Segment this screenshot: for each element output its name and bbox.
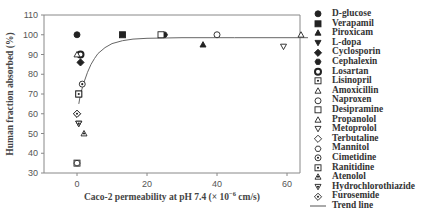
- y-tick-label: 90: [28, 50, 38, 60]
- y-tick-label: 110: [24, 10, 38, 20]
- triangle-down-dot-icon: [315, 184, 321, 189]
- square-open-icon: [315, 107, 321, 113]
- legend: D-glucoseVerapamilPiroxicamL-dopaCyclosp…: [310, 9, 415, 210]
- data-point-hydrochlorothiazide: [76, 121, 82, 126]
- data-point-atenolol: [81, 131, 87, 136]
- data-point-mannitol: [74, 161, 80, 166]
- circle-thick-icon: [315, 69, 321, 75]
- triangle-down-filled-icon: [315, 40, 321, 45]
- data-point-verapamil: [120, 32, 126, 38]
- x-tick-label: 40: [212, 179, 222, 189]
- triangle-up-filled-icon: [315, 30, 321, 35]
- plot-frame: [44, 15, 300, 173]
- triangle-up-dot-icon: [315, 174, 321, 179]
- y-tick-label: 60: [28, 109, 38, 119]
- y-tick-label: 100: [23, 30, 38, 40]
- square-dot-icon: [315, 78, 321, 84]
- triangle-up-open-icon: [315, 88, 321, 93]
- data-point-piroxicam: [200, 42, 206, 47]
- x-tick-label: 0: [74, 179, 79, 189]
- square-dot-icon: [315, 165, 321, 171]
- legend-label: Trend line: [332, 201, 373, 211]
- data-point-cimetidine: [79, 81, 85, 87]
- triangle-up-open-icon: [315, 117, 321, 122]
- diamond-open-icon: [314, 135, 321, 142]
- data-points: [73, 32, 304, 166]
- x-axis-ticks: 0204060: [74, 173, 292, 189]
- x-axis-title: Caco-2 permeability at pH 7.4 (× 10−6 cm…: [84, 190, 260, 203]
- y-tick-label: 40: [28, 148, 38, 158]
- circle-filled-icon: [315, 11, 321, 17]
- y-tick-label: 50: [28, 129, 38, 139]
- data-point-ranitidine: [76, 91, 82, 97]
- square-filled-icon: [315, 21, 321, 27]
- trend-line: [79, 38, 308, 104]
- data-point-metoprolol: [281, 44, 287, 49]
- data-point-d-glucose: [74, 32, 80, 38]
- legend-item: Piroxicam: [310, 28, 415, 38]
- diamond-dot-icon: [314, 193, 321, 200]
- x-tick-label: 20: [142, 179, 152, 189]
- triangle-down-open-icon: [315, 127, 321, 132]
- circle-open-icon: [315, 97, 321, 103]
- y-axis-ticks: 30405060708090100110: [23, 10, 44, 178]
- circle-dot-icon: [315, 155, 321, 161]
- diamond-filled-icon: [314, 49, 321, 56]
- data-point-cyclosporin: [77, 59, 84, 66]
- data-point-furosemide: [73, 110, 80, 117]
- legend-item: Trend line: [310, 201, 415, 211]
- data-point-naproxen: [214, 32, 220, 38]
- y-tick-label: 80: [28, 69, 38, 79]
- y-tick-label: 70: [28, 89, 38, 99]
- data-point-propanolol: [298, 32, 304, 37]
- data-point-desipramine: [158, 32, 164, 38]
- y-axis-title: Human fraction absorbed (%): [5, 32, 16, 155]
- hexagon-filled-icon: [315, 59, 321, 64]
- x-tick-label: 60: [282, 179, 292, 189]
- hexagon-open-icon: [315, 146, 321, 151]
- y-tick-label: 30: [28, 168, 38, 178]
